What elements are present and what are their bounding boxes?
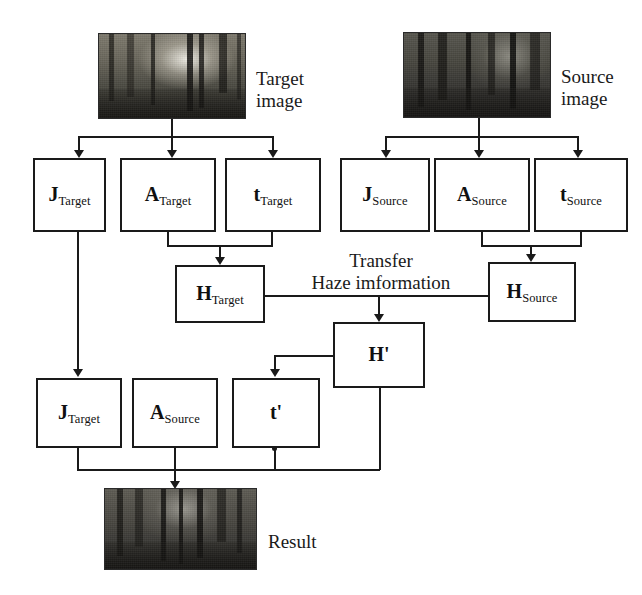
hprime-to-result-stem	[379, 388, 381, 470]
target-branch-right	[272, 136, 274, 151]
target-branch-right-arrow	[268, 150, 278, 158]
j-target-long-connector	[77, 232, 79, 370]
box-t-source[interactable]: tSource	[534, 158, 628, 232]
source-image	[403, 32, 551, 118]
source-branch-mid	[478, 136, 480, 151]
a-source-stub	[481, 232, 483, 246]
box-a-source-top-label: ASource	[457, 184, 507, 207]
source-branch-right-arrow	[573, 150, 583, 158]
source-branch-right	[577, 136, 579, 151]
box-j-source-label: JSource	[362, 184, 407, 207]
target-image-stem	[171, 119, 173, 137]
result-image-grain	[105, 489, 256, 569]
target-image-grain	[99, 34, 245, 118]
haze-transfer-caption: Transfer Haze imformation	[270, 250, 492, 295]
haze-transfer-stem	[378, 295, 380, 315]
result-image	[104, 488, 257, 570]
box-j-target-top[interactable]: JTarget	[33, 158, 106, 232]
target-branch-left-arrow	[74, 150, 84, 158]
haze-transfer-bus	[265, 295, 488, 297]
target-branch-mid	[171, 136, 173, 151]
box-t-prime[interactable]: t'	[232, 378, 320, 448]
hprime-to-tprime-arrow	[270, 369, 280, 377]
j-target-bottom-stub	[77, 448, 79, 470]
source-branch-left-arrow	[381, 150, 391, 158]
box-a-target[interactable]: ATarget	[120, 158, 216, 232]
box-j-target-bottom-label: JTarget	[58, 402, 100, 425]
box-h-target[interactable]: HTarget	[175, 265, 265, 323]
box-t-target[interactable]: tTarget	[225, 158, 321, 232]
result-merge-bus	[77, 469, 380, 471]
t-prime-stub	[274, 448, 276, 470]
box-j-target-bottom[interactable]: JTarget	[36, 378, 122, 448]
a-target-stub	[167, 232, 169, 246]
t-target-stub	[271, 232, 273, 246]
box-a-source-bottom[interactable]: ASource	[132, 378, 218, 448]
source-image-grain	[404, 33, 550, 117]
a-source-bottom-stub	[174, 448, 176, 470]
source-distribution-bus	[385, 136, 579, 138]
box-h-source-label: HSource	[507, 281, 558, 304]
source-image-caption: Source image	[561, 66, 614, 111]
box-a-target-label: ATarget	[145, 184, 192, 207]
target-distribution-bus	[78, 136, 274, 138]
box-h-prime[interactable]: H'	[333, 322, 425, 388]
result-caption: Result	[268, 531, 317, 553]
source-branch-left	[385, 136, 387, 151]
source-branch-mid-arrow	[474, 150, 484, 158]
target-branch-left	[78, 136, 80, 151]
target-ht-merge-arrow	[215, 257, 225, 265]
box-h-source[interactable]: HSource	[488, 262, 576, 322]
box-a-source-top[interactable]: ASource	[434, 158, 530, 232]
box-j-source[interactable]: JSource	[340, 158, 430, 232]
box-a-source-bottom-label: ASource	[150, 402, 200, 425]
target-branch-mid-arrow	[167, 150, 177, 158]
source-image-stem	[478, 118, 480, 136]
box-t-source-label: tSource	[560, 184, 602, 207]
hprime-to-tprime-bus	[274, 355, 335, 357]
t-source-stub	[580, 232, 582, 246]
target-image	[98, 33, 246, 119]
box-j-target-top-label: JTarget	[48, 184, 90, 207]
box-h-prime-label: H'	[368, 344, 389, 367]
box-t-target-label: tTarget	[254, 184, 293, 207]
hprime-to-tprime-stem	[274, 355, 276, 370]
haze-transfer-arrow	[374, 314, 384, 322]
box-h-target-label: HTarget	[196, 283, 244, 306]
target-image-caption: Target image	[256, 68, 304, 113]
source-hs-merge-arrow	[526, 254, 536, 262]
j-target-long-connector-arrow	[73, 369, 83, 377]
box-t-prime-label: t'	[270, 402, 282, 425]
haze-transfer-diagram: Target image Source image JTarget ATarge…	[0, 0, 642, 595]
